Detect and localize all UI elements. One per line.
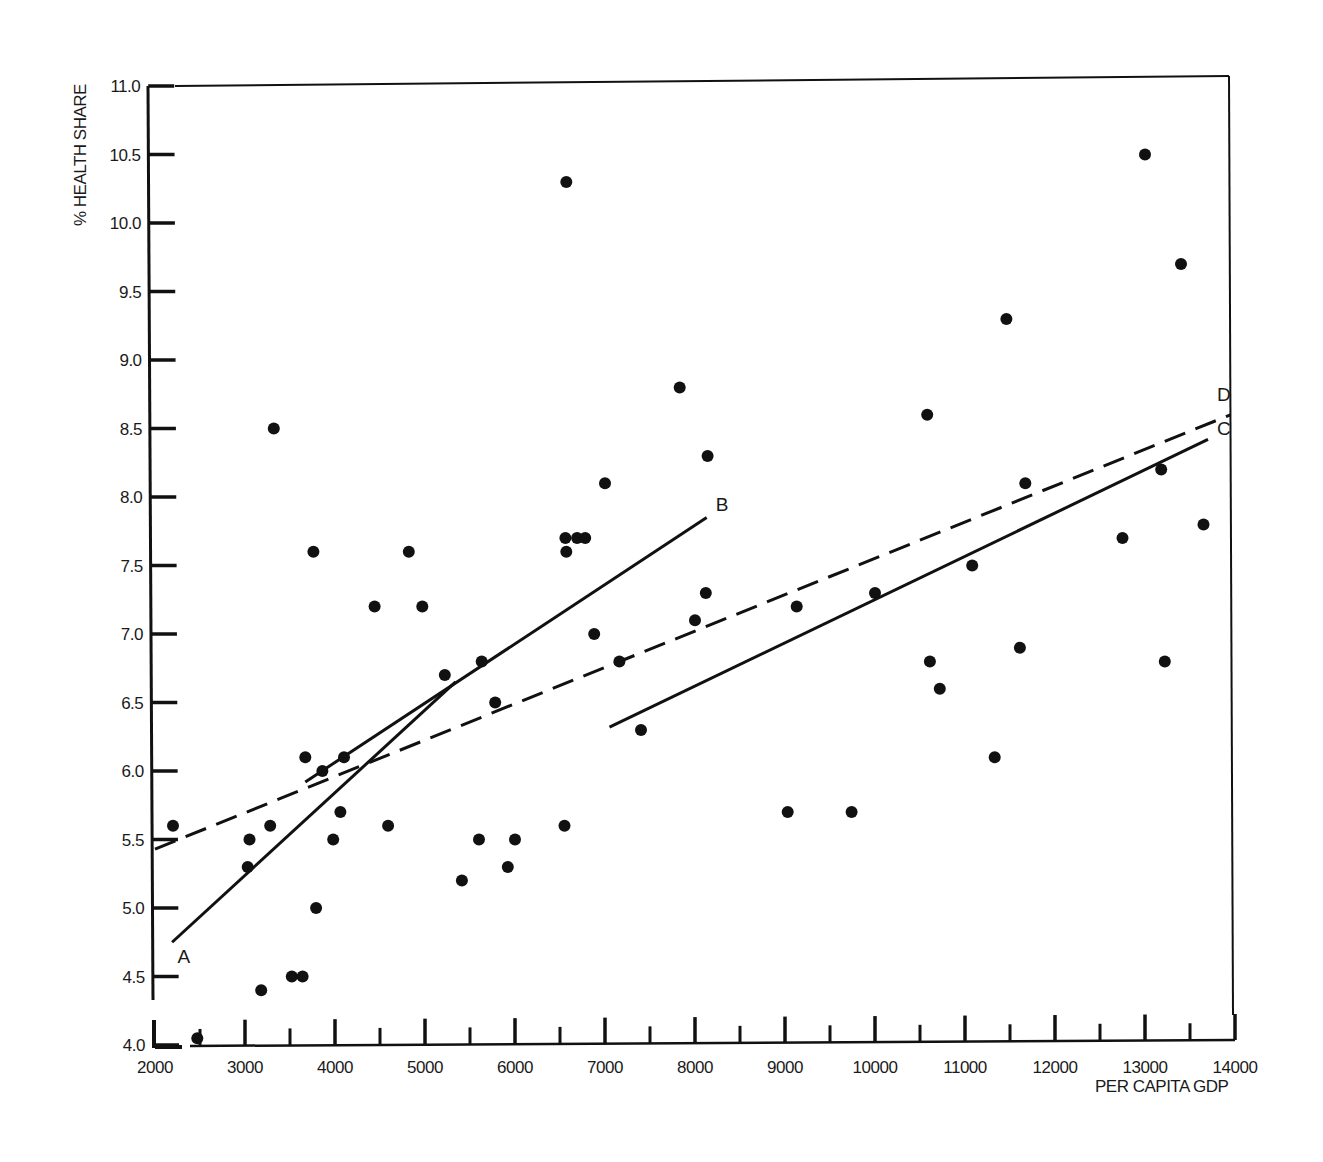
x-tick-label: 13000 xyxy=(1123,1058,1168,1077)
data-point xyxy=(1155,464,1167,476)
data-point xyxy=(989,751,1001,763)
data-point xyxy=(509,834,521,846)
y-tick-label: 8.0 xyxy=(120,488,142,507)
data-point xyxy=(473,834,485,846)
x-tick-label: 12000 xyxy=(1033,1058,1078,1077)
trend-line-c xyxy=(610,439,1209,727)
y-tick-label: 10.0 xyxy=(110,214,141,233)
data-point xyxy=(167,820,179,832)
data-point xyxy=(476,655,488,667)
data-point xyxy=(416,601,428,613)
plot-frame xyxy=(175,76,1233,1015)
data-point xyxy=(869,587,881,599)
x-axis: 2000300040005000600070008000900010000110… xyxy=(137,1014,1257,1077)
data-point xyxy=(369,601,381,613)
y-tick-label: 10.5 xyxy=(109,146,140,165)
data-point xyxy=(456,875,468,887)
trend-lines xyxy=(155,415,1231,942)
data-point xyxy=(966,560,978,572)
data-point xyxy=(588,628,600,640)
data-point xyxy=(613,655,625,667)
scatter-chart: 4.04.55.05.56.06.57.07.58.08.59.09.510.0… xyxy=(0,0,1323,1162)
line-labels: ABCD xyxy=(178,384,1231,967)
data-point xyxy=(327,834,339,846)
data-point xyxy=(268,423,280,435)
x-tick-label: 7000 xyxy=(587,1058,623,1077)
y-tick-label: 4.5 xyxy=(123,968,145,987)
x-tick-label: 2000 xyxy=(137,1058,173,1077)
data-point xyxy=(439,669,451,681)
line-label-d: D xyxy=(1217,384,1231,405)
y-tick-label: 6.0 xyxy=(121,762,143,781)
data-point xyxy=(560,176,572,188)
data-point xyxy=(264,820,276,832)
data-point xyxy=(846,806,858,818)
data-point xyxy=(1117,532,1129,544)
data-point xyxy=(1000,313,1012,325)
data-point xyxy=(338,751,350,763)
y-tick-label: 7.0 xyxy=(121,625,143,644)
y-tick-label: 11.0 xyxy=(110,77,140,96)
data-point xyxy=(1019,477,1031,489)
trend-line-d xyxy=(155,415,1231,849)
data-point xyxy=(310,902,322,914)
right-border xyxy=(1229,76,1233,1015)
data-point xyxy=(244,834,256,846)
data-point xyxy=(191,1032,203,1044)
data-point xyxy=(1014,642,1026,654)
data-point xyxy=(403,546,415,558)
x-tick-label: 4000 xyxy=(317,1058,353,1077)
x-tick-label: 6000 xyxy=(497,1058,533,1077)
data-point xyxy=(255,984,267,996)
y-tick-label: 6.5 xyxy=(121,694,143,713)
data-point xyxy=(382,820,394,832)
x-tick-label: 11000 xyxy=(943,1058,987,1077)
data-point xyxy=(307,546,319,558)
x-tick-label: 14000 xyxy=(1213,1058,1258,1077)
x-tick-label: 5000 xyxy=(407,1058,443,1077)
y-axis: 4.04.55.05.56.06.57.07.58.08.59.09.510.0… xyxy=(109,77,179,1055)
data-point xyxy=(560,546,572,558)
y-tick-label: 4.0 xyxy=(123,1036,145,1055)
y-tick-label: 5.5 xyxy=(122,831,144,850)
data-points xyxy=(167,149,1210,1045)
data-point xyxy=(674,381,686,393)
data-point xyxy=(559,532,571,544)
data-point xyxy=(689,614,701,626)
line-label-a: A xyxy=(178,946,191,967)
x-tick-label: 8000 xyxy=(677,1058,713,1077)
y-tick-label: 9.5 xyxy=(119,283,141,302)
data-point xyxy=(702,450,714,462)
y-tick-label: 8.5 xyxy=(120,420,142,439)
data-point xyxy=(921,409,933,421)
data-point xyxy=(502,861,514,873)
data-point xyxy=(924,655,936,667)
data-point xyxy=(599,477,611,489)
y-axis-title: % HEALTH SHARE xyxy=(71,84,90,226)
y-tick-label: 9.0 xyxy=(119,351,141,370)
data-point xyxy=(316,765,328,777)
x-tick-label: 3000 xyxy=(227,1058,263,1077)
x-axis-line xyxy=(190,1040,1235,1046)
data-point xyxy=(286,971,298,983)
x-tick-label: 10000 xyxy=(853,1058,898,1077)
data-point xyxy=(489,697,501,709)
data-point xyxy=(635,724,647,736)
data-point xyxy=(782,806,794,818)
data-point xyxy=(791,601,803,613)
data-point xyxy=(934,683,946,695)
data-point xyxy=(559,820,571,832)
data-point xyxy=(1139,149,1151,161)
data-point xyxy=(1159,655,1171,667)
line-label-b: B xyxy=(716,494,729,515)
x-axis-title: PER CAPITA GDP xyxy=(1095,1077,1229,1096)
data-point xyxy=(297,971,309,983)
data-point xyxy=(299,751,311,763)
data-point xyxy=(334,806,346,818)
y-tick-label: 7.5 xyxy=(120,557,142,576)
data-point xyxy=(700,587,712,599)
top-border xyxy=(175,76,1229,86)
data-point xyxy=(579,532,591,544)
x-tick-label: 9000 xyxy=(767,1058,803,1077)
line-label-c: C xyxy=(1217,418,1231,439)
